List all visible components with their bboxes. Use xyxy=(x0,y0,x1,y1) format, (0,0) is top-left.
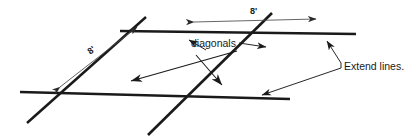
leader-extend-upper xyxy=(327,41,341,63)
extend-lines-leader-group xyxy=(262,41,341,95)
figure-canvas: diagonals Extend lines. 8' 8' xyxy=(0,0,420,138)
diagonal-arrow-down-left xyxy=(131,51,237,81)
top-horizontal-line xyxy=(120,31,356,34)
leader-extend-lower xyxy=(262,68,341,95)
dimension-left-8ft xyxy=(60,27,137,87)
diagonals-label: diagonals xyxy=(191,38,236,49)
left-diagonal-line xyxy=(27,17,146,123)
diagonal-indicator-arrows-group xyxy=(131,51,237,85)
construction-lines-group xyxy=(20,13,356,135)
dimension-top-label: 8' xyxy=(250,7,257,16)
extend-lines-label: Extend lines. xyxy=(344,61,404,72)
leader-diagonals-right xyxy=(239,43,266,47)
dimension-lines-group xyxy=(60,19,316,87)
diagonal-arrow-down-right xyxy=(196,55,222,85)
dimension-top-8ft xyxy=(194,19,316,22)
